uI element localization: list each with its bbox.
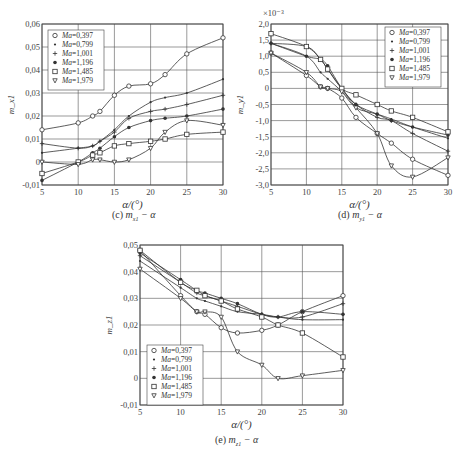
y-tick-label: 0,03 [25,88,40,98]
y-tick-label: 1,0 [258,51,269,61]
y-tick-label: 0 [134,373,138,383]
y-tick-label: 0,04 [25,65,41,75]
x-tick-label: 25 [183,187,192,197]
filled-circle-marker-icon [53,61,57,65]
y-tick-label: 0,03 [123,293,138,303]
y-tick-label: 0,02 [25,111,40,121]
y-tick-label: -2,5 [256,164,269,174]
series-filled-circle [40,107,225,182]
y-tick-label: 0,01 [123,347,138,357]
legend: Ma=0,397Ma=0,799Ma=1,001Ma=1,196Ma=1,485… [147,345,203,405]
x-tick-label: 25 [408,187,417,197]
filled-circle-marker-icon [40,107,225,182]
y-tick-label: 0 [36,157,40,167]
y-axis-label: m_x1 [6,95,16,115]
legend-entry: Ma=1,001 [398,46,430,55]
caption-d: (d) my1 − α [338,209,382,222]
square-marker-icon [40,130,225,176]
y-tick-label: 1,5 [258,35,269,45]
legend-entry: Ma=0,397 [160,346,192,355]
square-marker-icon [138,248,345,359]
x-tick-label: 5 [138,407,142,417]
chart-svg: 51015202530-3,0-2,5-2,0-1,5-1,0-0,500,51… [235,0,463,228]
legend-entry: Ma=0,397 [61,31,93,40]
legend: Ma=0,397Ma=0,799Ma=1,001Ma=1,196Ma=1,485… [385,27,441,87]
x-tick-label: 10 [176,407,185,417]
x-tick-label: 15 [217,407,226,417]
y-multiplier: ×10⁻³ [263,8,284,18]
y-tick-label: -1,5 [256,132,269,142]
caption-e: (e) mz1 − α [215,434,258,447]
circle-marker-icon [152,348,156,352]
caption-var: m [229,434,236,445]
x-tick-label: 25 [298,407,307,417]
y-tick-label: 0,5 [258,67,269,77]
y-tick-label: -3,0 [256,180,269,190]
series-filled-circle [138,251,345,319]
x-tick-label: 15 [338,187,347,197]
x-tick-label: 15 [110,187,119,197]
square-marker-icon [53,69,57,73]
chart-svg: 51015202530-0,0100,010,020,030,040,050,0… [0,0,235,228]
y-tick-label: -0,01 [22,180,40,190]
y-axis-label: m_y1 [235,95,245,115]
legend-entry: Ma=1,196 [398,55,430,64]
caption-rest: − α [241,434,258,445]
chart-d: 51015202530-3,0-2,5-2,0-1,5-1,0-0,500,51… [235,0,463,228]
caption-label: (c) [112,209,123,220]
caption-c: (c) mx1 − α [112,209,156,222]
y-tick-label: 0,05 [123,240,138,250]
series-plus [40,93,225,150]
caption-rest: − α [139,209,156,220]
legend-entry: Ma=1,196 [160,373,192,382]
legend-entry: Ma=1,485 [398,64,430,73]
series-square [40,130,225,176]
dot-marker-icon [153,358,155,360]
x-tick-label: 30 [444,187,453,197]
circle-marker-icon [138,248,345,335]
legend-entry: Ma=1,979 [398,73,430,82]
y-tick-label: -0,01 [120,400,138,410]
legend-entry: Ma=1,196 [61,58,93,67]
y-tick-label: -0,5 [256,100,269,110]
y-tick-label: 0 [265,83,269,93]
y-tick-label: -1,0 [256,116,269,126]
y-tick-label: 0,06 [25,19,40,29]
legend-entry: Ma=1,001 [160,364,192,373]
x-axis-label: α/(°) [231,418,252,431]
y-tick-label: 0,04 [123,267,139,277]
chart-svg: 51015202530-0,0100,010,020,030,040,05α/(… [0,228,463,457]
plus-marker-icon [138,253,345,319]
circle-marker-icon [390,30,394,34]
legend-entry: Ma=0,799 [160,355,192,364]
x-tick-label: 20 [146,187,155,197]
legend-entry: Ma=0,799 [61,40,93,49]
dot-marker-icon [391,40,393,42]
y-tick-label: 0,02 [123,320,138,330]
filled-circle-marker-icon [152,376,156,380]
square-marker-icon [152,384,156,388]
x-tick-label: 5 [40,187,44,197]
filled-circle-marker-icon [138,251,345,319]
x-tick-label: 10 [302,187,311,197]
x-tick-label: 30 [219,187,228,197]
legend-entry: Ma=0,799 [398,37,430,46]
caption-var: m [126,209,133,220]
circle-marker-icon [53,33,57,37]
y-tick-label: 0,05 [25,42,40,52]
y-tick-label: -2,0 [256,148,269,158]
series-circle [138,248,345,335]
y-tick-label: 0,01 [25,134,40,144]
caption-label: (e) [215,434,226,445]
series-square [138,248,345,359]
legend-entry: Ma=1,001 [61,49,93,58]
x-tick-label: 5 [269,187,273,197]
x-tick-label: 20 [258,407,267,417]
chart-e: 51015202530-0,0100,010,020,030,040,05α/(… [0,228,463,457]
legend-entry: Ma=1,979 [61,76,93,85]
filled-circle-marker-icon [390,58,394,62]
x-tick-label: 10 [74,187,83,197]
legend: Ma=0,397Ma=0,799Ma=1,001Ma=1,196Ma=1,485… [48,30,104,90]
legend-entry: Ma=1,979 [160,391,192,400]
x-tick-label: 30 [339,407,348,417]
